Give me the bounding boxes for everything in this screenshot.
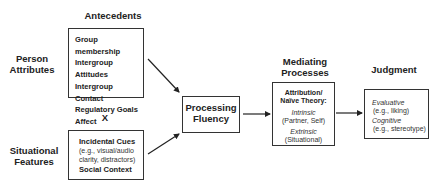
- arrow-situational-to-fluency: [148, 134, 179, 154]
- arrows-layer: [0, 0, 446, 184]
- arrow-person-to-fluency: [148, 59, 179, 92]
